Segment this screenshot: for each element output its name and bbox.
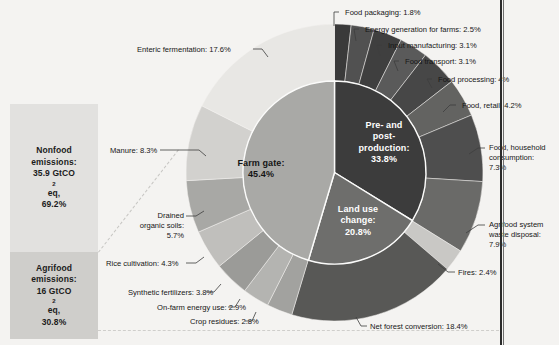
- callout-energy-generation-for-farms: Energy generation for farms: 2.5%: [365, 25, 481, 35]
- bar-nonfood-line1: Nonfood: [23, 145, 85, 156]
- bar-segment-agrifood: Agrifood emissions: 16 GtCO2eq, 30.8%: [10, 252, 98, 339]
- callout-fires: Fires: 2.4%: [458, 268, 496, 278]
- callout-on-farm-energy-use: On-farm energy use: 2.9%: [157, 303, 246, 313]
- bar-agrifood-value: 16 GtCO2eq,: [26, 286, 81, 317]
- figure-canvas: Nonfood emissions: 35.9 GtCO2eq, 69.2% A…: [0, 0, 559, 345]
- callout-rice-cultivation: Rice cultivation: 4.3%: [106, 259, 179, 269]
- callout-input-manufacturing: Input manufacturing: 3.1%: [388, 41, 477, 51]
- bar-nonfood-line2: emissions:: [23, 157, 85, 168]
- callout-food-transport: Food transport: 3.1%: [405, 57, 476, 67]
- stacked-bar-total-emissions: Nonfood emissions: 35.9 GtCO2eq, 69.2% A…: [10, 104, 98, 339]
- callout-manure: Manure: 8.3%: [110, 146, 157, 156]
- nested-donut-chart: Farm gate: 45.4% Pre- and post- producti…: [186, 24, 483, 321]
- inner-label-pre-and-post-production: Pre- and post- production: 33.8%: [338, 120, 430, 165]
- callout-food-packaging: Food packaging: 1.8%: [345, 8, 421, 18]
- callout-enteric-fermentation: Enteric fermentation: 17.6%: [137, 45, 231, 55]
- bar-agrifood-line1: Agrifood: [26, 263, 81, 274]
- callout-food-processing: Food processing: 4%: [438, 75, 509, 85]
- bar-nonfood-value: 35.9 GtCO2eq,: [23, 168, 85, 199]
- callout-food-retail: Food, retail: 4.2%: [462, 101, 522, 111]
- callout-synthetic-fertilizers: Synthetic fertilizers: 3.8%: [128, 288, 213, 298]
- inner-label-land-use-change: Land use change: 20.8%: [312, 204, 404, 238]
- page-binding-shadow: [503, 0, 504, 345]
- bar-agrifood-percent: 30.8%: [26, 317, 81, 328]
- bar-agrifood-line2: emissions:: [26, 274, 81, 285]
- callout-net-forest-conversion: Net forest conversion: 18.4%: [370, 322, 468, 332]
- bar-segment-nonfood: Nonfood emissions: 35.9 GtCO2eq, 69.2%: [10, 104, 98, 252]
- callout-drained-organic-soils: Drained organic soils: 5.7%: [118, 211, 184, 241]
- inner-label-farm-gate: Farm gate: 45.4%: [202, 158, 320, 181]
- page-binding-line: [500, 0, 502, 345]
- bar-nonfood-percent: 69.2%: [23, 199, 85, 210]
- callout-food-household-consumption: Food, household consumption: 7.3%: [489, 143, 555, 173]
- callout-crop-residues: Crop residues: 2.8%: [190, 317, 259, 327]
